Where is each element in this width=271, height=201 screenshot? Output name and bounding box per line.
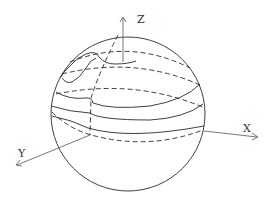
z-axis-label: Z xyxy=(137,13,145,26)
front-latitude-lines xyxy=(51,84,204,134)
y-axis: Y xyxy=(16,135,90,166)
y-axis-label: Y xyxy=(17,147,26,160)
x-axis: X xyxy=(204,122,258,140)
irregular-boundary-curve xyxy=(60,53,136,78)
x-axis-label: X xyxy=(243,122,251,135)
sphere-diagram: Z X Y xyxy=(0,0,271,201)
meridian-dashed xyxy=(90,35,118,135)
